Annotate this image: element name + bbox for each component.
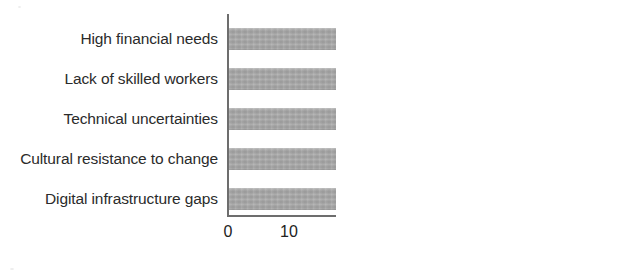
- category-label: Technical uncertainties: [63, 111, 218, 127]
- category-label: High financial needs: [80, 31, 218, 47]
- category-label: Lack of skilled workers: [64, 71, 218, 87]
- x-tick-label: 0: [224, 224, 233, 240]
- x-tick-label: 10: [280, 224, 298, 240]
- bar-digital-infrastructure-gaps: [229, 188, 336, 210]
- y-axis-line: [227, 14, 229, 217]
- scan-artifact: [10, 268, 14, 270]
- bar-chart: High financial needs Lack of skilled wor…: [0, 0, 336, 273]
- bar-lack-of-skilled-workers: [229, 68, 336, 90]
- scan-artifact: [18, 6, 21, 8]
- x-axis-line: [227, 215, 336, 217]
- category-label: Digital infrastructure gaps: [45, 191, 218, 207]
- category-label: Cultural resistance to change: [20, 151, 218, 167]
- bar-high-financial-needs: [229, 28, 336, 50]
- bar-cultural-resistance-to-change: [229, 148, 336, 170]
- bar-technical-uncertainties: [229, 108, 336, 130]
